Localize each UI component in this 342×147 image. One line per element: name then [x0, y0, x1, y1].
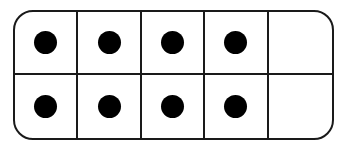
dot-icon [161, 95, 184, 118]
empty-cell [269, 12, 332, 75]
dot-icon [161, 31, 184, 54]
dot-icon [34, 95, 57, 118]
ten-frame-grid [15, 12, 332, 138]
filled-cell [205, 75, 268, 138]
filled-cell [142, 75, 205, 138]
filled-cell [78, 12, 141, 75]
dot-icon [98, 31, 121, 54]
dot-icon [34, 31, 57, 54]
dot-icon [224, 95, 247, 118]
dot-icon [224, 31, 247, 54]
filled-cell [78, 75, 141, 138]
filled-cell [15, 75, 78, 138]
filled-cell [15, 12, 78, 75]
ten-frame [13, 10, 334, 140]
filled-cell [142, 12, 205, 75]
empty-cell [269, 75, 332, 138]
filled-cell [205, 12, 268, 75]
dot-icon [98, 95, 121, 118]
